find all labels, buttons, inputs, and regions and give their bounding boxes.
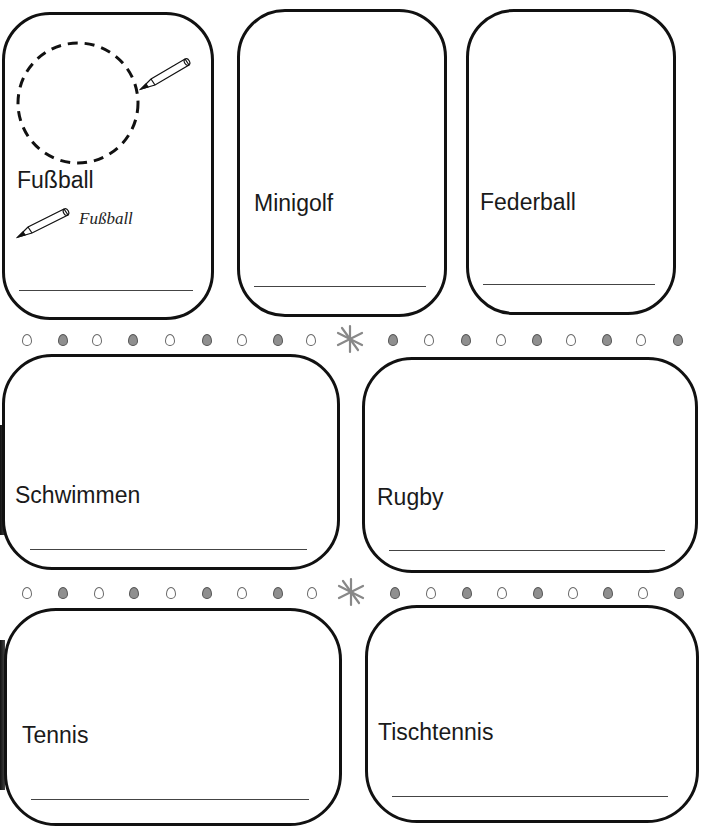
card-rugby: Rugby xyxy=(362,357,698,573)
decorative-dot xyxy=(568,587,578,599)
decorative-dot xyxy=(390,587,400,599)
card-fussball: Fußball Fußball xyxy=(2,12,214,320)
decorative-dot xyxy=(94,587,104,599)
writing-line[interactable] xyxy=(392,796,668,797)
decorative-dot xyxy=(673,334,683,346)
decorative-dot xyxy=(202,587,212,599)
decorative-dot xyxy=(532,334,542,346)
decorative-dot xyxy=(636,334,646,346)
decorative-dot xyxy=(92,334,102,346)
pencil-icon xyxy=(16,205,72,241)
decorative-divider xyxy=(0,324,708,354)
writing-line[interactable] xyxy=(389,550,665,551)
card-federball: Federball xyxy=(466,9,676,315)
decorative-dot xyxy=(129,587,139,599)
decorative-dot xyxy=(426,587,436,599)
decorative-dot xyxy=(202,334,212,346)
decorative-dot xyxy=(307,587,317,599)
card-label: Minigolf xyxy=(254,190,333,217)
card-schwimmen: Schwimmen xyxy=(2,354,340,570)
decorative-dot xyxy=(424,334,434,346)
card-minigolf: Minigolf xyxy=(237,9,447,317)
card-label: Tennis xyxy=(22,722,88,749)
decorative-dot xyxy=(273,334,283,346)
decorative-dot xyxy=(166,587,176,599)
decorative-dot xyxy=(165,334,175,346)
decorative-dot xyxy=(602,334,612,346)
writing-line[interactable] xyxy=(31,799,309,800)
writing-line[interactable] xyxy=(483,284,655,285)
card-tennis: Tennis xyxy=(4,608,342,826)
decorative-dot xyxy=(22,334,32,346)
pencil-icon xyxy=(139,53,191,93)
decorative-dot xyxy=(461,334,471,346)
drawing-area-circle xyxy=(14,39,142,167)
decorative-dot xyxy=(58,587,68,599)
asterisk-star-icon xyxy=(336,577,366,607)
card-label: Federball xyxy=(480,189,576,216)
card-tischtennis: Tischtennis xyxy=(365,605,699,823)
example-handwriting-word: Fußball xyxy=(79,209,133,229)
decorative-dot xyxy=(638,587,648,599)
decorative-dot xyxy=(128,334,138,346)
decorative-dot xyxy=(388,334,398,346)
decorative-dot xyxy=(603,587,613,599)
writing-line[interactable] xyxy=(19,290,193,291)
decorative-divider xyxy=(0,577,708,607)
decorative-dot xyxy=(273,587,283,599)
decorative-dot xyxy=(674,587,684,599)
decorative-dot xyxy=(497,587,507,599)
card-label: Schwimmen xyxy=(15,482,140,509)
card-label: Rugby xyxy=(377,484,443,511)
asterisk-star-icon xyxy=(335,324,365,354)
decorative-dot xyxy=(566,334,576,346)
decorative-dot xyxy=(496,334,506,346)
decorative-dot xyxy=(237,587,247,599)
card-label: Fußball xyxy=(17,167,94,194)
decorative-dot xyxy=(306,334,316,346)
decorative-dot xyxy=(462,587,472,599)
decorative-dot xyxy=(58,334,68,346)
decorative-dot xyxy=(533,587,543,599)
decorative-dot xyxy=(22,587,32,599)
writing-line[interactable] xyxy=(254,286,426,287)
writing-line[interactable] xyxy=(30,549,307,550)
card-label: Tischtennis xyxy=(378,719,493,746)
decorative-dot xyxy=(237,334,247,346)
